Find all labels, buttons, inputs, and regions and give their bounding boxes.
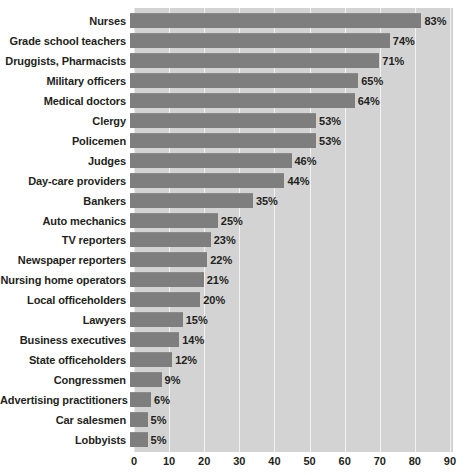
x-axis: 0102030405060708090 [134, 453, 453, 473]
bar-track: 71% [130, 51, 469, 71]
bar [130, 292, 200, 307]
category-label: Grade school teachers [0, 31, 130, 51]
category-label: Policemen [0, 131, 130, 151]
bar [130, 232, 211, 247]
bar-track: 25% [130, 211, 469, 231]
bar-chart: Nurses83%Grade school teachers74%Druggis… [0, 0, 469, 475]
bar [130, 392, 151, 407]
bar-track: 44% [130, 171, 469, 191]
bar-track: 14% [130, 330, 469, 350]
bar [130, 173, 284, 188]
bar [130, 153, 292, 168]
bar-track: 74% [130, 31, 469, 51]
bar [130, 252, 207, 267]
bar-value-label: 14% [179, 330, 204, 350]
bar-row: TV reporters23% [0, 230, 469, 250]
bar-row: Druggists, Pharmacists71% [0, 51, 469, 71]
bar-track: 15% [130, 310, 469, 330]
bar-value-label: 22% [207, 250, 232, 270]
category-label: Druggists, Pharmacists [0, 51, 130, 71]
x-axis-tick: 60 [339, 455, 351, 467]
bar-row: Military officers65% [0, 71, 469, 91]
category-label: TV reporters [0, 230, 130, 250]
category-label: Medical doctors [0, 91, 130, 111]
x-axis-tick: 0 [131, 455, 137, 467]
bar [130, 113, 316, 128]
bar-value-label: 71% [379, 51, 404, 71]
x-axis-tick: 20 [198, 455, 210, 467]
category-label: State officeholders [0, 350, 130, 370]
bar-row: Business executives14% [0, 330, 469, 350]
bar-track: 12% [130, 350, 469, 370]
bar-row: Lobbyists5% [0, 430, 469, 450]
bar [130, 332, 179, 347]
bar-value-label: 12% [172, 350, 197, 370]
bar [130, 33, 390, 48]
bar-row: Local officeholders20% [0, 290, 469, 310]
bar-track: 35% [130, 191, 469, 211]
bar-value-label: 9% [162, 370, 181, 390]
bar-value-label: 35% [253, 191, 278, 211]
bar-row: Bankers35% [0, 191, 469, 211]
bar [130, 133, 316, 148]
bar-track: 6% [130, 390, 469, 410]
bar-value-label: 83% [421, 11, 446, 31]
bar-row: Policemen53% [0, 131, 469, 151]
bar-value-label: 5% [148, 410, 167, 430]
bar-value-label: 46% [292, 151, 317, 171]
category-label: Judges [0, 151, 130, 171]
category-label: Bankers [0, 191, 130, 211]
bar-row: State officeholders12% [0, 350, 469, 370]
bar-value-label: 64% [355, 91, 380, 111]
bar-track: 64% [130, 91, 469, 111]
bar-track: 65% [130, 71, 469, 91]
bar-track: 20% [130, 290, 469, 310]
bar [130, 352, 172, 367]
bar-row: Newspaper reporters22% [0, 250, 469, 270]
category-label: Advertising practitioners [0, 390, 130, 410]
bar-value-label: 6% [151, 390, 170, 410]
bar-value-label: 21% [204, 270, 229, 290]
bar-row: Clergy53% [0, 111, 469, 131]
bar-value-label: 5% [148, 430, 167, 450]
bar-row: Car salesmen5% [0, 410, 469, 430]
bar-row: Nurses83% [0, 11, 469, 31]
category-label: Day-care providers [0, 171, 130, 191]
x-axis-tick: 40 [268, 455, 280, 467]
category-label: Business executives [0, 330, 130, 350]
category-label: Nurses [0, 11, 130, 31]
bar-value-label: 65% [358, 71, 383, 91]
category-label: Lobbyists [0, 430, 130, 450]
bar-row: Judges46% [0, 151, 469, 171]
bar-row: Advertising practitioners6% [0, 390, 469, 410]
category-label: Local officeholders [0, 290, 130, 310]
x-axis-tick: 10 [163, 455, 175, 467]
category-label: Lawyers [0, 310, 130, 330]
bar-track: 53% [130, 111, 469, 131]
category-label: Congressmen [0, 370, 130, 390]
bar-value-label: 53% [316, 131, 341, 151]
bar-value-label: 74% [390, 31, 415, 51]
category-label: Nursing home operators [0, 270, 130, 290]
bar-row: Grade school teachers74% [0, 31, 469, 51]
bar-track: 5% [130, 430, 469, 450]
category-label: Car salesmen [0, 410, 130, 430]
bar [130, 93, 355, 108]
category-label: Clergy [0, 111, 130, 131]
bar-value-label: 23% [211, 230, 236, 250]
x-axis-tick: 50 [303, 455, 315, 467]
bar-row: Congressmen9% [0, 370, 469, 390]
x-axis-tick: 70 [374, 455, 386, 467]
category-label: Newspaper reporters [0, 250, 130, 270]
bar-track: 23% [130, 230, 469, 250]
bar-value-label: 20% [200, 290, 225, 310]
bar [130, 53, 379, 68]
bar-value-label: 15% [183, 310, 208, 330]
bar-track: 22% [130, 250, 469, 270]
bar [130, 272, 204, 287]
bar-track: 21% [130, 270, 469, 290]
category-label: Auto mechanics [0, 211, 130, 231]
x-axis-tick: 90 [444, 455, 456, 467]
bar-value-label: 44% [284, 171, 309, 191]
bar-value-label: 25% [218, 211, 243, 231]
